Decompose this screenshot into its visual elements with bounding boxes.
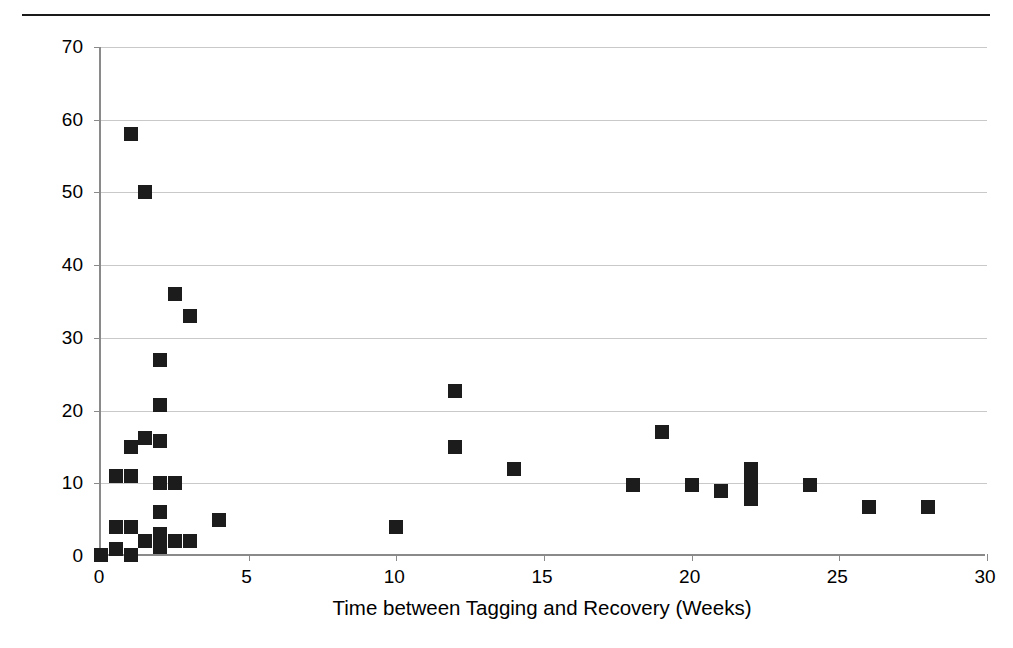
gridline bbox=[101, 192, 987, 193]
data-point bbox=[109, 542, 123, 556]
x-tick-label: 0 bbox=[69, 566, 129, 588]
y-tick-mark bbox=[94, 411, 101, 412]
y-tick-label: 20 bbox=[23, 400, 83, 422]
data-point bbox=[507, 462, 521, 476]
data-point bbox=[626, 478, 640, 492]
data-point bbox=[138, 185, 152, 199]
data-point bbox=[448, 384, 462, 398]
data-point bbox=[168, 476, 182, 490]
x-tick-label: 10 bbox=[364, 566, 424, 588]
data-point bbox=[124, 440, 138, 454]
gridline bbox=[101, 338, 987, 339]
data-point bbox=[124, 127, 138, 141]
data-point bbox=[862, 500, 876, 514]
x-tick-label: 30 bbox=[955, 566, 1013, 588]
data-point bbox=[153, 505, 167, 519]
data-point bbox=[744, 462, 758, 476]
gridline bbox=[101, 265, 987, 266]
x-axis-title: Time between Tagging and Recovery (Weeks… bbox=[99, 596, 985, 620]
y-tick-mark bbox=[94, 338, 101, 339]
y-tick-mark bbox=[94, 192, 101, 193]
y-tick-mark bbox=[94, 47, 101, 48]
y-tick-label: 30 bbox=[23, 327, 83, 349]
gridline bbox=[101, 120, 987, 121]
x-tick-label: 20 bbox=[660, 566, 720, 588]
clipped-caption bbox=[300, 0, 820, 7]
data-point bbox=[153, 476, 167, 490]
figure-container: Average Distance Traveled per Day (Miles… bbox=[0, 0, 1013, 648]
x-tick-label: 15 bbox=[512, 566, 572, 588]
gridline bbox=[101, 411, 987, 412]
data-point bbox=[94, 548, 108, 562]
data-point bbox=[744, 492, 758, 506]
x-tick-mark bbox=[396, 554, 397, 561]
data-point bbox=[685, 478, 699, 492]
data-point bbox=[448, 440, 462, 454]
data-point bbox=[168, 534, 182, 548]
y-tick-label: 70 bbox=[23, 36, 83, 58]
data-point bbox=[168, 287, 182, 301]
data-point bbox=[153, 398, 167, 412]
data-point bbox=[212, 513, 226, 527]
y-tick-label: 40 bbox=[23, 254, 83, 276]
data-point bbox=[124, 469, 138, 483]
data-point bbox=[153, 434, 167, 448]
data-point bbox=[109, 469, 123, 483]
y-tick-mark bbox=[94, 265, 101, 266]
x-tick-label: 25 bbox=[807, 566, 867, 588]
data-point bbox=[655, 425, 669, 439]
data-point bbox=[803, 478, 817, 492]
y-tick-mark bbox=[94, 483, 101, 484]
y-tick-mark bbox=[94, 120, 101, 121]
x-tick-mark bbox=[692, 554, 693, 561]
data-point bbox=[124, 548, 138, 562]
data-point bbox=[138, 534, 152, 548]
data-point bbox=[714, 484, 728, 498]
x-tick-mark bbox=[839, 554, 840, 561]
x-tick-mark bbox=[987, 554, 988, 561]
x-tick-mark bbox=[544, 554, 545, 561]
y-tick-label: 0 bbox=[23, 545, 83, 567]
x-tick-label: 5 bbox=[217, 566, 277, 588]
data-point bbox=[183, 534, 197, 548]
y-tick-label: 60 bbox=[23, 109, 83, 131]
data-point bbox=[138, 431, 152, 445]
y-tick-label: 50 bbox=[23, 181, 83, 203]
gridline bbox=[101, 47, 987, 48]
data-point bbox=[389, 520, 403, 534]
data-point bbox=[124, 520, 138, 534]
gridline bbox=[101, 483, 987, 484]
data-point bbox=[153, 353, 167, 367]
data-point bbox=[153, 527, 167, 541]
horizontal-rule bbox=[22, 14, 990, 16]
y-tick-label: 10 bbox=[23, 472, 83, 494]
data-point bbox=[183, 309, 197, 323]
data-point bbox=[921, 500, 935, 514]
data-point bbox=[109, 520, 123, 534]
plot-area bbox=[99, 47, 985, 556]
x-tick-mark bbox=[249, 554, 250, 561]
